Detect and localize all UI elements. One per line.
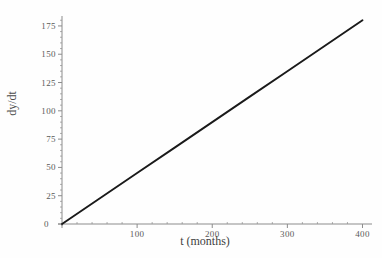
y-axis-title: dy/dt (5, 80, 20, 128)
x-axis-tick-label: 400 (342, 230, 382, 239)
y-axis-tick-label: 75 (26, 135, 56, 144)
y-axis-tick-label: 100 (26, 107, 56, 116)
x-axis-title: t (months) (120, 234, 290, 249)
data-series-group (62, 20, 362, 224)
y-axis-tick-label: 50 (26, 163, 56, 172)
y-axis-tick-label: 150 (26, 50, 56, 59)
x-axis-major-ticks (62, 224, 362, 228)
y-axis-major-ticks (58, 26, 62, 224)
chart-figure: 255075100125150175 100200300400 0 dy/dt … (0, 0, 382, 258)
y-axis-tick-label: 175 (26, 22, 56, 31)
y-axis-tick-label: 25 (26, 192, 56, 201)
origin-tick-label: 0 (44, 219, 49, 229)
y-axis-tick-label: 125 (26, 79, 56, 88)
data-line-dy-dt (62, 20, 362, 224)
plot-canvas (0, 0, 382, 258)
